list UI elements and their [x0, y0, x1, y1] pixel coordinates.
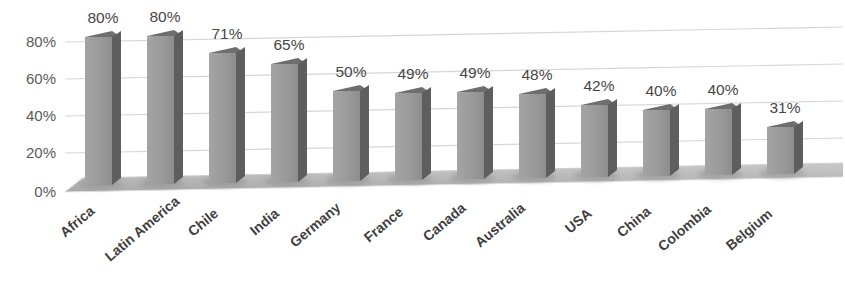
- value-label-usa: 42%: [583, 77, 614, 94]
- value-label-africa: 80%: [87, 9, 118, 26]
- bar-side-face: [112, 31, 121, 185]
- bar-front-face: [519, 94, 546, 178]
- y-tick-label-40: 40%: [26, 107, 56, 124]
- bar-side-face: [174, 30, 183, 184]
- bar-side-face: [546, 88, 555, 178]
- bar-front-face: [643, 110, 670, 176]
- bar-front-face: [147, 36, 174, 184]
- bar-side-face: [732, 103, 741, 175]
- value-label-belgium: 31%: [769, 99, 800, 116]
- value-label-canada: 49%: [459, 64, 490, 81]
- value-label-france: 49%: [397, 65, 428, 82]
- value-label-china: 40%: [645, 82, 676, 99]
- bar-front-face: [271, 64, 298, 182]
- bar-front-face: [85, 37, 112, 185]
- value-label-australia: 48%: [521, 66, 552, 83]
- bar-front-face: [581, 105, 608, 177]
- bar-front-face: [705, 109, 732, 175]
- bar-front-face: [333, 91, 360, 181]
- bar-side-face: [236, 47, 245, 183]
- bar-chart-container: 80% 60% 40% 20% 0% 80% 80% 71% 65% 50% 4…: [0, 0, 845, 297]
- bar-front-face: [767, 127, 794, 174]
- y-tick-label-80: 80%: [26, 33, 56, 50]
- value-label-germany: 50%: [335, 63, 366, 80]
- value-label-chile: 71%: [211, 25, 242, 42]
- value-label-colombia: 40%: [707, 81, 738, 98]
- value-label-latin-america: 80%: [149, 8, 180, 25]
- bar-side-face: [484, 86, 493, 179]
- bar-front-face: [209, 53, 236, 183]
- bar-side-face: [794, 121, 803, 174]
- bar-side-face: [670, 104, 679, 176]
- value-label-india: 65%: [273, 36, 304, 53]
- bar-side-face: [608, 99, 617, 177]
- chart-canvas: 80% 60% 40% 20% 0% 80% 80% 71% 65% 50% 4…: [0, 0, 845, 297]
- bar-front-face: [395, 93, 422, 180]
- bar-side-face: [422, 87, 431, 180]
- bar-side-face: [298, 58, 307, 182]
- y-tick-label-0: 0%: [34, 183, 56, 200]
- y-tick-label-20: 20%: [26, 144, 56, 161]
- y-tick-label-60: 60%: [26, 70, 56, 87]
- bar-front-face: [457, 92, 484, 179]
- bar-side-face: [360, 85, 369, 181]
